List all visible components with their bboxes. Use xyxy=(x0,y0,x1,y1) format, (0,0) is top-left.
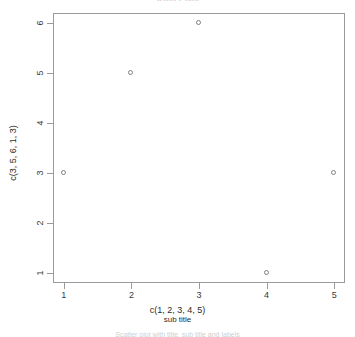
y-tick-mark xyxy=(47,23,53,24)
y-tick-label: 2 xyxy=(35,216,45,230)
y-tick-label: 1 xyxy=(35,266,45,280)
x-tick-label: 4 xyxy=(259,290,275,300)
y-tick-mark xyxy=(47,273,53,274)
x-tick-label: 3 xyxy=(191,290,207,300)
y-tick-mark xyxy=(47,123,53,124)
plot-panel xyxy=(53,13,345,283)
x-tick-label: 1 xyxy=(56,290,72,300)
x-tick-mark xyxy=(267,283,268,289)
y-tick-label: 5 xyxy=(35,66,45,80)
x-tick-mark xyxy=(64,283,65,289)
x-tick-mark xyxy=(131,283,132,289)
y-tick-label: 3 xyxy=(35,166,45,180)
x-axis-subtitle: sub title xyxy=(0,315,355,324)
data-point xyxy=(196,20,201,25)
x-tick-label: 2 xyxy=(123,290,139,300)
x-tick-label: 5 xyxy=(326,290,342,300)
y-axis-title: c(3, 5, 6, 1, 3) xyxy=(8,78,18,228)
y-tick-mark xyxy=(47,223,53,224)
x-axis-title: c(1, 2, 3, 4, 5) xyxy=(0,305,355,315)
data-point xyxy=(61,170,66,175)
y-tick-mark xyxy=(47,73,53,74)
chart-title: scatter plot xyxy=(0,0,355,1)
x-tick-mark xyxy=(199,283,200,289)
y-tick-label: 4 xyxy=(35,116,45,130)
data-point xyxy=(264,270,269,275)
x-tick-mark xyxy=(334,283,335,289)
y-tick-label: 6 xyxy=(35,16,45,30)
figure-caption: Scatter plot with title, sub title and l… xyxy=(0,331,355,337)
y-tick-mark xyxy=(47,173,53,174)
